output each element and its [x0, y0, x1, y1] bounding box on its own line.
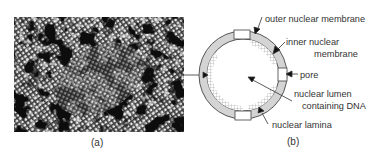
- pore-bottom: [235, 111, 251, 120]
- pore-right: [278, 68, 287, 81]
- nuclear-envelope-figure: (a): [0, 0, 381, 156]
- label-nuclear-lumen-1: nuclear lumen: [294, 89, 352, 99]
- label-inner-nuclear-membrane-2: membrane: [314, 49, 358, 59]
- label-nuclear-lumen-2: containing DNA: [302, 101, 366, 111]
- label-outer-nuclear-membrane: outer nuclear membrane: [265, 14, 365, 24]
- label-nuclear-lamina: nuclear lamina: [272, 120, 332, 130]
- panel-b-caption: (b): [287, 136, 299, 147]
- label-inner-nuclear-membrane-1: inner nuclear: [286, 37, 339, 47]
- label-pore: pore: [300, 70, 318, 80]
- pore-top: [234, 30, 250, 39]
